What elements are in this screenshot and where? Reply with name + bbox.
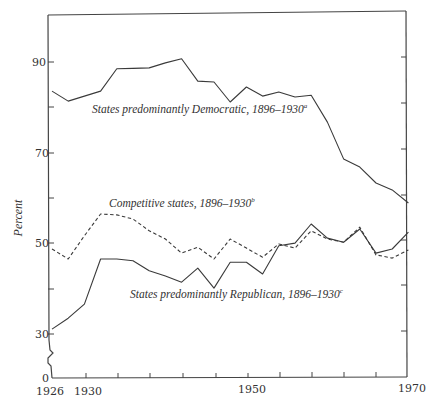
y-label-30: 30	[35, 328, 49, 341]
democratic-series-label: States predominantly Democratic, 1896–19…	[92, 102, 308, 116]
y-label-70: 70	[35, 147, 49, 160]
x-label-1926: 1926	[36, 385, 64, 398]
y-label-0: 0	[42, 372, 49, 385]
y-axis-title: Percent	[11, 199, 25, 238]
republican-series-label: States predominantly Republican, 1896–19…	[130, 287, 344, 301]
right-axis	[406, 11, 407, 377]
x-label-1930: 1930	[74, 385, 102, 398]
democratic-states-line	[52, 59, 408, 203]
y-label-50: 50	[35, 237, 49, 250]
x-label-1950: 1950	[238, 383, 266, 396]
competitive-series-label: Competitive states, 1896–1930b	[109, 196, 255, 210]
y-axis	[48, 15, 53, 378]
x-axis	[52, 377, 407, 378]
x-label-1970: 1970	[398, 382, 426, 395]
competitive-states-line	[52, 214, 408, 259]
top-border	[48, 11, 406, 15]
y-label-90: 90	[32, 56, 46, 69]
line-chart: 90 70 50 30 0 1926 1930 1950 1970 Percen…	[0, 0, 428, 404]
